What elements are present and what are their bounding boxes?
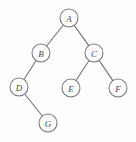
tree-node-c: C: [85, 44, 103, 62]
node-label-b: B: [38, 49, 44, 59]
tree-diagram-canvas: ABCDEFG: [0, 0, 136, 142]
tree-node-b: B: [32, 44, 50, 62]
node-label-c: C: [91, 49, 98, 59]
edge-layer: [24, 25, 113, 116]
tree-edge-c-e: [76, 61, 89, 81]
tree-node-e: E: [62, 79, 80, 97]
tree-edge-c-f: [99, 60, 113, 80]
node-layer: ABCDEFG: [10, 9, 127, 132]
tree-edge-a-c: [74, 25, 89, 45]
tree-node-f: F: [109, 79, 127, 97]
binary-tree-figure: ABCDEFG: [0, 0, 136, 142]
tree-edge-b-d: [24, 61, 36, 80]
node-label-e: E: [67, 84, 74, 94]
tree-node-d: D: [10, 78, 28, 96]
node-label-f: F: [114, 84, 121, 94]
tree-node-g: G: [39, 114, 57, 132]
tree-edge-d-g: [25, 94, 43, 116]
node-label-g: G: [45, 119, 52, 129]
tree-edge-a-b: [47, 25, 64, 46]
tree-node-a: A: [60, 9, 78, 27]
node-label-d: D: [15, 83, 23, 93]
node-label-a: A: [65, 14, 72, 24]
